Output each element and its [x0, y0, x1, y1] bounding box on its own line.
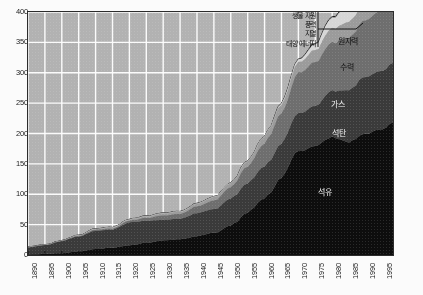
y-tick-label: 150 [4, 160, 28, 168]
y-tick-label: 350 [4, 38, 28, 46]
callout-line-geothermal: 지열 [240, 29, 316, 38]
y-tick-label: 400 [4, 8, 28, 16]
y-tick-label: 300 [4, 69, 28, 77]
chart-screenshot: 400350300250200150100500 189018951900190… [0, 0, 423, 295]
x-tick-label: 1890 [31, 263, 39, 279]
nuclear-label: 원자력 [338, 37, 358, 46]
x-tick-label: 1940 [200, 263, 208, 279]
callout-line-wind: 풍력 [240, 20, 316, 29]
coal-label: 석탄 [332, 129, 345, 138]
plot-area: 석유 석탄 가스 수력 원자력 [27, 11, 394, 256]
oil-label: 석유 [318, 188, 331, 197]
x-axis: 1890189519001905191019151920192519301935… [0, 260, 423, 295]
x-tick-label: 1910 [99, 263, 107, 279]
x-tick-label: 1925 [149, 263, 157, 279]
y-tick-label: 50 [4, 221, 28, 229]
x-tick-label: 1915 [115, 263, 123, 279]
gas-label: 가스 [331, 100, 344, 109]
x-tick-label: 1985 [352, 263, 360, 279]
x-tick-label: 1960 [268, 263, 276, 279]
y-tick-label: 100 [4, 190, 28, 198]
y-tick-label: 250 [4, 99, 28, 107]
x-tick-label: 1975 [318, 263, 326, 279]
x-tick-label: 1970 [301, 263, 309, 279]
x-tick-label: 1945 [217, 263, 225, 279]
x-tick-label: 1995 [386, 263, 394, 279]
x-tick-label: 1905 [82, 263, 90, 279]
x-tick-label: 1955 [251, 263, 259, 279]
x-tick-label: 1990 [369, 263, 377, 279]
hydro-label: 수력 [340, 63, 353, 72]
callout-line-solar: 태양 에너지 [240, 39, 316, 48]
y-tick-label: 0 [4, 251, 28, 259]
x-tick-label: 1980 [335, 263, 343, 279]
x-tick-label: 1900 [65, 263, 73, 279]
x-tick-label: 1965 [284, 263, 292, 279]
y-tick-label: 200 [4, 130, 28, 138]
callout-line-biomass: 생물 자원 [240, 11, 316, 20]
x-tick-label: 1895 [48, 263, 56, 279]
x-tick-label: 1930 [166, 263, 174, 279]
x-tick-label: 1935 [183, 263, 191, 279]
x-tick-label: 1950 [234, 263, 242, 279]
x-tick-label: 1920 [132, 263, 140, 279]
renewables-callout: 생물 자원 풍력 지열 태양 에너지 [240, 11, 316, 48]
